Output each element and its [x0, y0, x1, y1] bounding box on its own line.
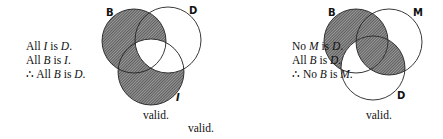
premise-1: No M is D.	[292, 39, 353, 53]
conclusion: ∴ No B is M.	[292, 67, 353, 81]
right-label-b: B	[328, 7, 336, 18]
right-label-d: D	[397, 90, 405, 101]
right-verdict: valid.	[366, 109, 392, 121]
bottom-verdict: valid.	[188, 122, 214, 134]
conclusion: ∴ All B is D.	[26, 67, 85, 81]
right-syllogism: No M is D. All B is D. ∴ No B is M.	[292, 39, 353, 81]
right-label-m: M	[413, 7, 423, 18]
left-syllogism: All I is D. All B is I. ∴ All B is D.	[26, 39, 85, 81]
premise-1: All I is D.	[26, 39, 85, 53]
left-verdict: valid.	[143, 109, 169, 121]
premise-2: All B is D.	[292, 53, 353, 67]
premise-2: All B is I.	[26, 53, 85, 67]
